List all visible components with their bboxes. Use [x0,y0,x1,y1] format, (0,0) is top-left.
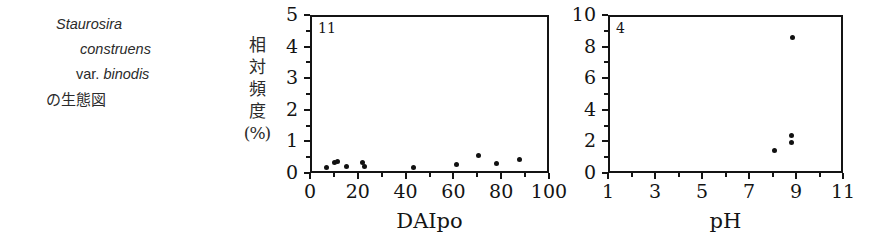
y-tick-minor-daipo-4 [306,30,310,32]
x-tick-minor-daipo-4 [524,173,526,177]
x-tick-minor-ph-4 [819,173,821,177]
y-tick-minor-ph-1 [604,125,608,127]
y-tick-label-ph-0: 0 [570,163,596,182]
y-tick-minor-ph-2 [604,93,608,95]
chart-panel-daipo: 11012345020406080100DAIpo [310,15,549,173]
x-tick-major-ph-2 [701,173,703,179]
y-tick-minor-ph-0 [604,156,608,158]
y-tick-label-daipo-2: 2 [272,100,298,119]
y-tick-major-ph-4 [602,46,608,48]
y-axis-label-char-0: 相 [240,34,274,56]
data-point [789,140,794,145]
x-tick-major-ph-1 [654,173,656,179]
x-tick-minor-ph-0 [631,173,633,177]
x-tick-major-daipo-5 [548,173,550,179]
x-tick-minor-daipo-3 [476,173,478,177]
y-tick-label-ph-3: 6 [570,68,596,87]
x-tick-minor-ph-1 [678,173,680,177]
y-tick-major-daipo-3 [304,77,310,79]
y-tick-minor-daipo-2 [306,93,310,95]
y-tick-label-ph-5: 10 [570,5,596,24]
y-tick-label-daipo-0: 0 [272,163,298,182]
y-tick-label-ph-4: 8 [570,37,596,56]
x-tick-major-daipo-2 [405,173,407,179]
chart-panel-ph: 402468101357911pH [608,15,843,173]
x-tick-label-ph-3: 7 [726,182,772,201]
x-tick-major-daipo-4 [500,173,502,179]
y-tick-label-ph-2: 4 [570,100,596,119]
data-point [790,35,795,40]
y-axis-label-unit: (%) [240,122,274,144]
y-axis-label-char-2: 頻 [240,78,274,100]
y-tick-major-daipo-5 [304,14,310,16]
y-tick-major-ph-2 [602,109,608,111]
axes-frame-ph [608,15,843,173]
sample-count-ph: 4 [616,20,625,36]
x-tick-minor-ph-3 [772,173,774,177]
y-tick-label-daipo-4: 4 [272,37,298,56]
x-tick-minor-daipo-2 [429,173,431,177]
x-axis-title-ph: pH [608,209,843,232]
y-tick-major-daipo-1 [304,140,310,142]
y-tick-major-ph-3 [602,77,608,79]
x-tick-label-ph-1: 3 [632,182,678,201]
x-tick-major-ph-3 [748,173,750,179]
x-tick-label-ph-4: 9 [773,182,819,201]
x-tick-label-ph-5: 11 [820,182,866,201]
x-tick-label-daipo-0: 0 [287,182,333,201]
sample-count-daipo: 11 [318,20,336,36]
y-tick-minor-ph-4 [604,30,608,32]
y-tick-minor-daipo-1 [306,125,310,127]
x-tick-major-daipo-0 [309,173,311,179]
x-tick-major-ph-5 [842,173,844,179]
x-tick-minor-daipo-0 [333,173,335,177]
y-axis-label-vertical: 相 対 頻 度 (%) [240,34,274,144]
y-tick-label-daipo-1: 1 [272,131,298,150]
x-axis-title-daipo: DAIpo [310,209,549,232]
x-tick-label-daipo-3: 60 [430,182,476,201]
caption-line-species: construens [46,37,246,62]
y-tick-label-daipo-3: 3 [272,68,298,87]
y-tick-major-ph-5 [602,14,608,16]
x-tick-label-daipo-4: 80 [478,182,524,201]
caption-var-epithet: binodis [103,66,149,82]
y-tick-minor-daipo-0 [306,156,310,158]
y-tick-major-ph-1 [602,140,608,142]
x-tick-minor-daipo-1 [381,173,383,177]
x-tick-major-ph-4 [795,173,797,179]
y-axis-label-char-1: 対 [240,56,274,78]
caption-line-variety: var. binodis [46,62,246,87]
caption-line-genus: Staurosira [46,12,246,37]
x-tick-major-ph-0 [607,173,609,179]
y-tick-label-ph-1: 2 [570,131,596,150]
x-tick-label-daipo-2: 40 [383,182,429,201]
axes-frame-daipo [310,15,549,173]
x-tick-major-daipo-1 [357,173,359,179]
x-tick-label-daipo-1: 20 [335,182,381,201]
x-tick-minor-ph-2 [725,173,727,177]
data-point [517,157,522,162]
x-tick-label-daipo-5: 100 [526,182,572,201]
figure-root: Staurosira construens var. binodis の生態図 … [0,0,893,232]
caption-var-prefix: var. [76,66,103,82]
x-tick-label-ph-2: 5 [679,182,725,201]
x-tick-label-ph-0: 1 [585,182,631,201]
y-tick-minor-ph-3 [604,61,608,63]
y-tick-major-daipo-2 [304,109,310,111]
figure-caption: Staurosira construens var. binodis の生態図 [46,12,246,112]
y-tick-minor-daipo-3 [306,61,310,63]
y-axis-label-char-3: 度 [240,100,274,122]
y-tick-major-daipo-4 [304,46,310,48]
data-point [494,161,499,166]
x-tick-major-daipo-3 [452,173,454,179]
caption-line-japanese: の生態図 [46,87,246,112]
y-tick-label-daipo-5: 5 [272,5,298,24]
